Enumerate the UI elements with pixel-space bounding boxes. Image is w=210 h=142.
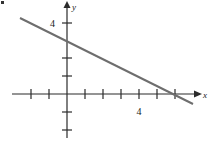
x-axis-arrow-icon [194,91,202,98]
plotted-line [20,18,193,104]
corner-artifact-dot [1,1,4,4]
x-axis-tick-label-4: 4 [137,106,142,117]
x-axis-label: x [202,90,207,100]
coordinate-plane-svg: 4 4 x y [0,0,210,142]
y-axis-arrow-icon [64,1,71,8]
graph-figure: 4 4 x y [0,0,210,142]
y-axis-label: y [71,2,76,12]
y-axis-tick-label-4: 4 [50,18,55,29]
